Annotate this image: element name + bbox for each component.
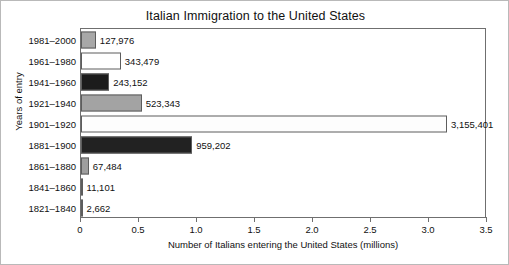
category-label: 1981–2000 (28, 34, 76, 45)
x-axis-tick-label: 0.5 (131, 224, 144, 235)
x-axis-tick (80, 217, 81, 222)
bar-row: 1881–1900959,202 (81, 134, 485, 155)
bar-row: 1941–1960243,152 (81, 71, 485, 92)
bar (81, 94, 142, 111)
y-axis-title: Years of entry (13, 57, 24, 147)
x-axis-tick-label: 0 (77, 224, 82, 235)
x-axis-title: Number of Italians entering the United S… (80, 239, 486, 250)
bar (81, 52, 121, 69)
bar-value-label: 3,155,401 (447, 118, 493, 129)
bar-rows: 1981–2000127,9761961–1980343,4791941–196… (81, 29, 485, 217)
category-label: 1841–1860 (28, 181, 76, 192)
category-label: 1901–1920 (28, 118, 76, 129)
bar-row: 1901–19203,155,401 (81, 113, 485, 134)
bar-row: 1921–1940523,343 (81, 92, 485, 113)
bar (81, 115, 447, 132)
x-axis-tick (312, 217, 313, 222)
x-axis-tick-label: 3.0 (421, 224, 434, 235)
plot-area: 1981–2000127,9761961–1980343,4791941–196… (80, 28, 486, 217)
x-axis-tick (254, 217, 255, 222)
category-label: 1941–1960 (28, 76, 76, 87)
x-axis: 00.51.01.52.02.53.03.5 (80, 217, 486, 218)
category-label: 1881–1900 (28, 139, 76, 150)
x-axis-tick (138, 217, 139, 222)
bar-value-label: 11,101 (83, 181, 115, 192)
x-axis-tick-label: 3.5 (479, 224, 492, 235)
bar-value-label: 343,479 (121, 55, 159, 66)
x-axis-tick-label: 1.5 (247, 224, 260, 235)
x-axis-tick-label: 1.0 (189, 224, 202, 235)
bar (81, 73, 109, 90)
bar-row: 1961–1980343,479 (81, 50, 485, 71)
bar-value-label: 243,152 (109, 76, 147, 87)
bar-row: 1861–188067,484 (81, 155, 485, 176)
bar (81, 31, 96, 48)
bar-value-label: 523,343 (142, 97, 180, 108)
bar (81, 157, 89, 174)
x-axis-tick (486, 217, 487, 222)
category-label: 1921–1940 (28, 97, 76, 108)
bar-value-label: 2,662 (83, 202, 111, 213)
chart-title: Italian Immigration to the United States (1, 9, 509, 23)
bar-row: 1821–18402,662 (81, 197, 485, 218)
x-axis-tick (370, 217, 371, 222)
bar-value-label: 127,976 (96, 34, 134, 45)
bar-row: 1841–186011,101 (81, 176, 485, 197)
x-axis-tick-label: 2.5 (363, 224, 376, 235)
category-label: 1961–1980 (28, 55, 76, 66)
chart-figure: Italian Immigration to the United States… (0, 0, 509, 265)
x-axis-tick (196, 217, 197, 222)
bar-value-label: 959,202 (192, 139, 230, 150)
category-label: 1821–1840 (28, 202, 76, 213)
x-axis-tick (428, 217, 429, 222)
bar-value-label: 67,484 (89, 160, 122, 171)
bar-row: 1981–2000127,976 (81, 29, 485, 50)
x-axis-tick-label: 2.0 (305, 224, 318, 235)
bar (81, 136, 192, 153)
category-label: 1861–1880 (28, 160, 76, 171)
